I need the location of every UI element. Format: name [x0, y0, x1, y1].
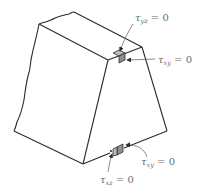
subscript: xz: [106, 179, 113, 187]
bottom-right-edge-a: [83, 153, 110, 164]
label-tau-xz-bottom: τxz = 0: [100, 175, 134, 187]
left-back-edge: [14, 24, 39, 131]
top-stress-element: [113, 50, 125, 63]
label-tau-yz-top: τyz = 0: [135, 13, 169, 25]
equals-zero: = 0: [116, 174, 134, 185]
solid-body: [14, 12, 167, 164]
bottom-element-dot: [110, 150, 111, 151]
front-vertical-edge: [83, 60, 108, 164]
subscript: yz: [141, 17, 148, 25]
bottom-left-edge: [14, 131, 83, 164]
top-right-edge: [74, 12, 142, 47]
equals-zero: = 0: [151, 12, 169, 23]
subscript: xy: [147, 161, 154, 169]
leader-tau-xy-top: [127, 59, 155, 60]
leader-tau-xz-bottom: [108, 154, 112, 172]
label-tau-xy-bottom: τxy = 0: [141, 157, 175, 169]
bottom-right-edge-b: [124, 131, 167, 148]
label-tau-xy-top: τxy = 0: [158, 55, 192, 67]
equals-zero: = 0: [157, 156, 175, 167]
leader-tau-yz-top: [120, 24, 133, 51]
top-back-edge: [39, 12, 74, 24]
subscript: xy: [164, 59, 171, 67]
equals-zero: = 0: [174, 54, 192, 65]
bottom-element-front-face: [117, 144, 123, 155]
bottom-element-side-face: [113, 147, 117, 156]
top-front-left-edge: [39, 24, 108, 60]
